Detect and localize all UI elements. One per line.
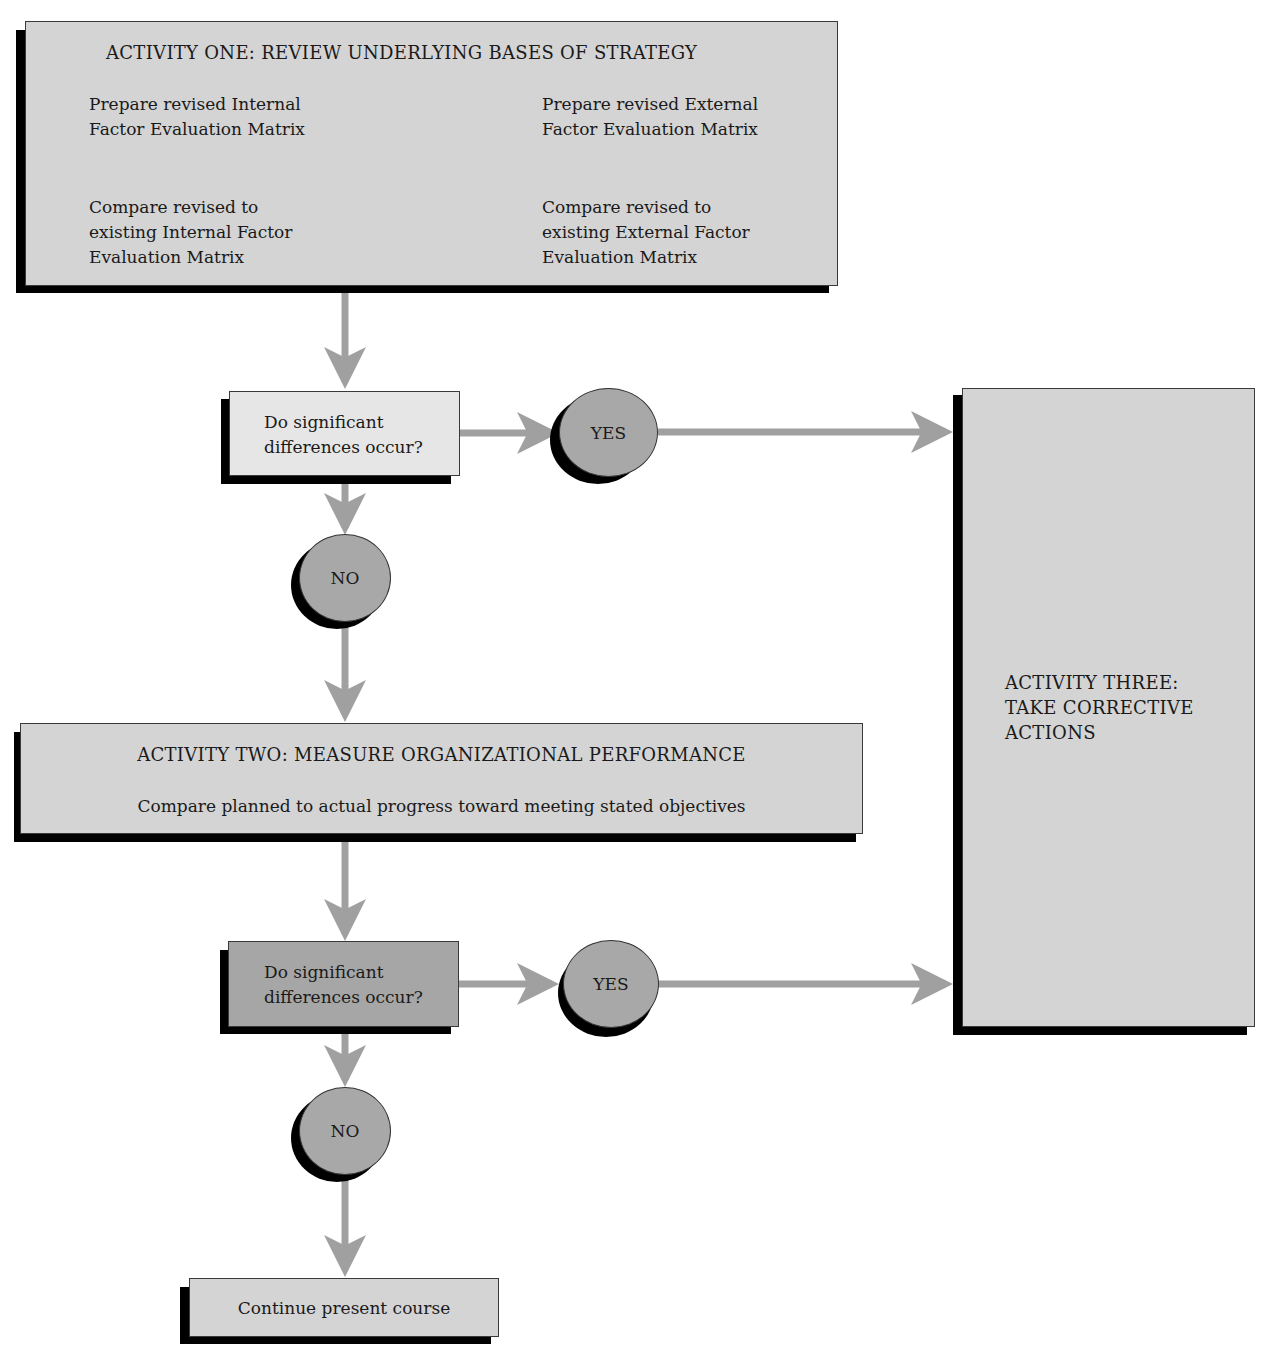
decision-two-question: Do significant differences occur? xyxy=(264,960,423,1010)
activity-two-title: ACTIVITY TWO: MEASURE ORGANIZATIONAL PER… xyxy=(21,742,862,767)
yes-two-label: YES xyxy=(593,974,628,994)
no-one-circle: NO xyxy=(299,534,391,622)
activity-one-prepare-external: Prepare revised External Factor Evaluati… xyxy=(542,92,758,142)
activity-two-box: ACTIVITY TWO: MEASURE ORGANIZATIONAL PER… xyxy=(20,723,863,834)
no-two-circle: NO xyxy=(299,1087,391,1175)
yes-two-circle: YES xyxy=(563,940,659,1028)
activity-three-title: ACTIVITY THREE: TAKE CORRECTIVE ACTIONS xyxy=(1005,670,1194,745)
no-one-label: NO xyxy=(331,568,360,588)
decision-one-box: Do significant differences occur? xyxy=(229,391,460,476)
yes-one-circle: YES xyxy=(559,388,658,477)
continue-label: Continue present course xyxy=(190,1296,498,1321)
no-two-label: NO xyxy=(331,1121,360,1141)
activity-three-box: ACTIVITY THREE: TAKE CORRECTIVE ACTIONS xyxy=(962,388,1255,1027)
yes-one-label: YES xyxy=(591,423,626,443)
activity-one-compare-external: Compare revised to existing External Fac… xyxy=(542,195,750,270)
activity-one-box: ACTIVITY ONE: REVIEW UNDERLYING BASES OF… xyxy=(25,21,838,286)
decision-two-box: Do significant differences occur? xyxy=(228,941,459,1027)
activity-two-description: Compare planned to actual progress towar… xyxy=(21,794,862,819)
activity-one-prepare-internal: Prepare revised Internal Factor Evaluati… xyxy=(89,92,305,142)
continue-box: Continue present course xyxy=(189,1278,499,1337)
activity-one-title: ACTIVITY ONE: REVIEW UNDERLYING BASES OF… xyxy=(106,40,697,65)
activity-one-compare-internal: Compare revised to existing Internal Fac… xyxy=(89,195,292,270)
decision-one-question: Do significant differences occur? xyxy=(264,410,423,460)
